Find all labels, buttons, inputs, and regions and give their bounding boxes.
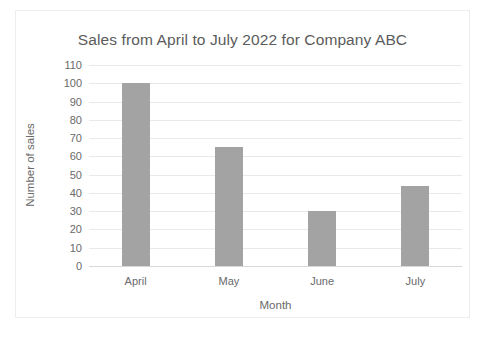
bar — [401, 186, 429, 266]
x-axis-tick-label: June — [310, 275, 334, 287]
x-axis-tick-label: April — [125, 275, 147, 287]
y-axis-tick-label: 0 — [76, 260, 82, 272]
scan-edge-artifact — [231, 11, 487, 18]
bar — [215, 147, 243, 266]
y-axis-title: Number of sales — [24, 123, 36, 207]
y-axis-tick-label: 80 — [70, 114, 82, 126]
y-axis-tick-label: 10 — [70, 242, 82, 254]
bar — [122, 83, 150, 266]
bar — [308, 211, 336, 266]
chart-container: Sales from April to July 2022 for Compan… — [15, 10, 470, 318]
y-axis-tick-label: 90 — [70, 96, 82, 108]
y-axis-tick-label: 100 — [64, 77, 82, 89]
y-axis-tick-label: 30 — [70, 205, 82, 217]
gridline — [89, 65, 462, 66]
x-axis-baseline — [89, 266, 462, 267]
y-axis-tick-label: 110 — [64, 59, 82, 71]
plot-area: 1101009080706050403020100AprilMayJuneJul… — [89, 65, 462, 266]
x-axis-tick-label: May — [218, 275, 239, 287]
y-axis-tick-label: 20 — [70, 223, 82, 235]
y-axis-tick-label: 40 — [70, 187, 82, 199]
x-axis-title: Month — [89, 299, 462, 311]
chart-title: Sales from April to July 2022 for Compan… — [16, 31, 469, 49]
y-axis-tick-label: 70 — [70, 132, 82, 144]
y-axis-tick-label: 60 — [70, 150, 82, 162]
y-axis-tick-label: 50 — [70, 169, 82, 181]
x-axis-tick-label: July — [406, 275, 426, 287]
